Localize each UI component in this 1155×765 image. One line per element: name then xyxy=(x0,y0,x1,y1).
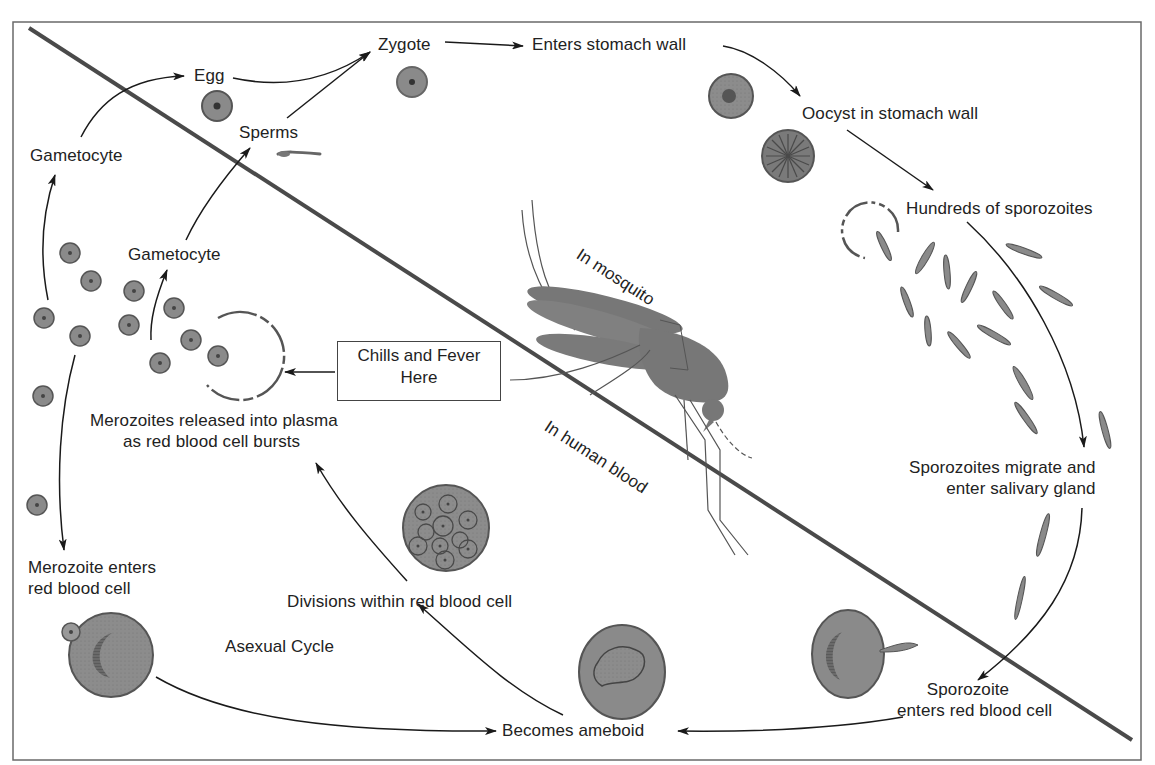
label-zygote: Zygote xyxy=(378,34,431,55)
label-sporozoite-enters-line2: enters red blood cell xyxy=(897,700,1039,721)
label-sporozoites-migrate-line1: Sporozoites migrate and xyxy=(909,457,1096,478)
arrow-zygote-to-stomach xyxy=(445,42,523,46)
merozoite-entering-rbc xyxy=(62,613,153,697)
label-gametocyte-outer: Gametocyte xyxy=(30,145,123,166)
oocyst-cell-mature xyxy=(762,130,814,182)
zygote-cell xyxy=(397,67,427,97)
label-sporozoite-enters-line1: Sporozoite xyxy=(897,679,1039,700)
label-egg: Egg xyxy=(194,65,225,86)
sporozoites xyxy=(875,230,1113,620)
label-divisions: Divisions within red blood cell xyxy=(287,591,512,612)
malaria-life-cycle-diagram: Egg Zygote Enters stomach wall Oocyst in… xyxy=(0,0,1155,765)
merozoites xyxy=(27,243,228,515)
label-sporozoites-migrate-line2: enter salivary gland xyxy=(909,478,1096,499)
arrow-gametocyte-to-egg xyxy=(81,76,184,137)
arrow-merozoites-to-gametocyte-outer xyxy=(43,175,55,300)
label-sporozoite-enters-rbc: Sporozoite enters red blood cell xyxy=(897,679,1039,721)
arrow-merozoites-to-rbc xyxy=(60,355,75,550)
label-hundreds-sporozoites: Hundreds of sporozoites xyxy=(906,198,1093,219)
label-merozoites-released-line1: Merozoites released into plasma xyxy=(90,410,338,431)
divisions-cell xyxy=(403,485,489,571)
label-merozoites-released-line2: as red blood cell bursts xyxy=(90,431,338,452)
label-sporozoites-migrate: Sporozoites migrate and enter salivary g… xyxy=(909,457,1096,499)
label-merozoites-released: Merozoites released into plasma as red b… xyxy=(90,410,338,452)
label-becomes-ameboid: Becomes ameboid xyxy=(502,720,644,741)
label-asexual-cycle: Asexual Cycle xyxy=(225,636,334,657)
label-merozoite-enters-rbc: Merozoite enters red blood cell xyxy=(28,557,156,599)
arrow-divisions-to-merozoites xyxy=(316,463,407,581)
arrow-egg-to-zygote xyxy=(233,52,370,82)
arrow-ameboid-to-divisions xyxy=(418,604,563,715)
arrow-sperms-to-zygote xyxy=(287,52,370,118)
arrow-rbc-to-ameboid xyxy=(678,717,903,731)
label-sperms: Sperms xyxy=(239,122,298,143)
burst-oocyst xyxy=(842,202,898,258)
egg-cell xyxy=(202,91,232,121)
label-oocyst: Oocyst in stomach wall xyxy=(802,103,978,124)
oocyst-cell-early xyxy=(709,74,753,118)
callout-line1: Chills and Fever xyxy=(344,345,494,367)
callout-line2: Here xyxy=(344,367,494,389)
flow-arrows xyxy=(43,42,1084,731)
label-merozoite-enters-line2: red blood cell xyxy=(28,578,156,599)
mosquito-human-divider xyxy=(29,28,1132,740)
arrow-oocyst-to-sporozoites xyxy=(847,130,933,190)
label-merozoite-enters-line1: Merozoite enters xyxy=(28,557,156,578)
label-enters-stomach-wall: Enters stomach wall xyxy=(532,34,686,55)
ameboid-cell xyxy=(579,625,665,719)
label-gametocyte-inner: Gametocyte xyxy=(128,244,221,265)
arrow-salivary-to-rbc xyxy=(978,508,1082,680)
mosquito-illustration xyxy=(510,200,752,555)
arrow-merozoite-rbc-to-ameboid xyxy=(156,677,496,731)
arrow-gametocyte-to-sperms xyxy=(186,148,250,240)
chills-fever-callout: Chills and Fever Here xyxy=(337,341,501,401)
frame-border xyxy=(13,22,1141,760)
diagram-artwork xyxy=(0,0,1155,765)
